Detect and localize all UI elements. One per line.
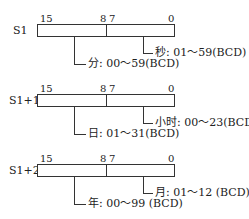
high-byte-field: 分: 00～59(BCD) [88, 58, 179, 69]
register-s1-plus-1: S1+1 15 8 7 0 日: 01～31(BCD) 小时: 00～23(BC… [0, 70, 249, 140]
low-byte-leader-h [143, 193, 153, 194]
low-byte-field: 秒: 01～59(BCD) [155, 47, 246, 58]
bit-7: 7 [109, 154, 115, 164]
high-byte-leader [74, 36, 75, 64]
high-byte-leader-h [74, 64, 86, 65]
bit-0: 0 [168, 84, 174, 94]
high-byte-field: 日: 01～31(BCD) [88, 128, 179, 139]
low-byte-leader [143, 106, 144, 123]
bit-7: 7 [109, 84, 115, 94]
bit-0: 0 [168, 154, 174, 164]
high-byte-leader-h [74, 134, 86, 135]
bit-15: 15 [40, 154, 53, 164]
bit-8: 8 [100, 14, 106, 24]
low-byte-field: 小时: 00～23(BCD) [155, 117, 249, 128]
byte-divider [106, 94, 107, 107]
high-byte-leader [74, 106, 75, 134]
bit-15: 15 [40, 14, 53, 24]
high-byte-leader [74, 176, 75, 204]
byte-divider [106, 164, 107, 177]
low-byte-leader [143, 36, 144, 53]
low-byte-leader-h [143, 123, 153, 124]
high-byte-field: 年: 00～99 (BCD) [88, 198, 183, 209]
register-name: S1+1 [9, 95, 40, 106]
register-s1-plus-2: S1+2 15 8 7 0 年: 00～99 (BCD) 月: 01～12 (B… [0, 140, 249, 210]
byte-divider [106, 24, 107, 37]
bit-8: 8 [100, 84, 106, 94]
bit-7: 7 [109, 14, 115, 24]
register-name: S1 [13, 25, 28, 36]
register-s1: S1 15 8 7 0 分: 00～59(BCD) 秒: 01～59(BCD) [0, 0, 249, 70]
bit-8: 8 [100, 154, 106, 164]
register-name: S1+2 [9, 165, 40, 176]
low-byte-field: 月: 01～12 (BCD) [155, 187, 249, 198]
low-byte-leader-h [143, 53, 153, 54]
high-byte-leader-h [74, 204, 86, 205]
low-byte-leader [143, 176, 144, 193]
bit-15: 15 [40, 84, 53, 94]
bit-0: 0 [168, 14, 174, 24]
